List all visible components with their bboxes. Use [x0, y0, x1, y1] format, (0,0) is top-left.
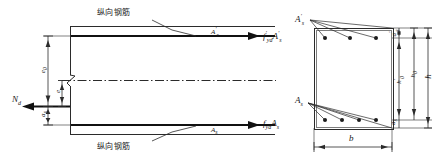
dim-b-label: b: [349, 134, 354, 143]
dim-h-label: h: [424, 68, 433, 86]
dim-h0prime-label: h′0: [393, 71, 405, 89]
section-bottom-steel-label: As: [295, 96, 303, 107]
dim-as-prime-label: a′s: [388, 24, 400, 42]
section-svg-overlay: [0, 0, 439, 162]
bottom-steel-leaders: [308, 103, 392, 128]
section-top-steel-label: A′s: [295, 13, 304, 26]
dim-h0-label: h0: [410, 65, 418, 83]
top-steel-leaders: [310, 20, 392, 38]
figure-canvas: 纵向钢筋 纵向钢筋 A′s As Nd f′ydA′s fydAs e0 e a…: [0, 0, 439, 162]
dim-as-bottom-label: as: [390, 113, 398, 131]
